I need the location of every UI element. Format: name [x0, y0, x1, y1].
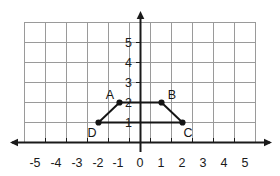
vertex-point-d	[95, 119, 101, 125]
vertex-point-b	[158, 99, 164, 105]
x-tick-label: 2	[179, 156, 186, 170]
coordinate-plane-figure: -5 -4 -3 -2 -1 0 1 2 3 4 5 5 4 3 2 1	[0, 0, 280, 176]
vertex-point-a	[116, 99, 122, 105]
x-tick-label: 1	[158, 156, 165, 170]
x-tick-label: -1	[112, 156, 123, 170]
vertex-label-c: C	[183, 126, 192, 140]
vertex-point-c	[179, 119, 185, 125]
y-tick-label: 3	[125, 76, 132, 90]
x-tick-label: -3	[71, 156, 82, 170]
y-tick-label: 5	[125, 36, 132, 50]
vertex-label-d: D	[87, 126, 96, 140]
coordinate-plot: -5 -4 -3 -2 -1 0 1 2 3 4 5 5 4 3 2 1	[0, 0, 280, 176]
vertex-label-b: B	[168, 88, 176, 102]
x-tick-label: -5	[29, 156, 40, 170]
x-tick-label: 4	[221, 156, 228, 170]
x-tick-label: 5	[242, 156, 249, 170]
x-tick-label: 3	[200, 156, 207, 170]
x-tick-label: -2	[92, 156, 103, 170]
vertex-label-a: A	[106, 88, 115, 102]
x-tick-label: -4	[50, 156, 61, 170]
x-tick-label: 0	[137, 156, 144, 170]
y-tick-label: 4	[125, 56, 132, 70]
